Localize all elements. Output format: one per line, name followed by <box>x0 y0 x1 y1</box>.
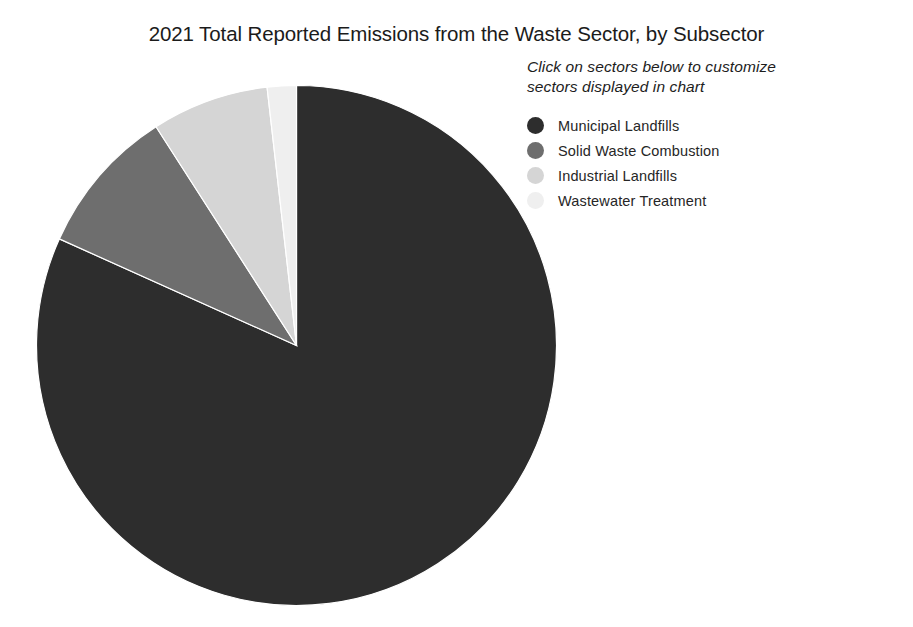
legend-swatch-icon <box>527 142 544 159</box>
legend-hint-text: Click on sectors below to customize sect… <box>527 57 827 97</box>
page-title: 2021 Total Reported Emissions from the W… <box>0 22 913 46</box>
legend-item-label: Wastewater Treatment <box>558 193 706 209</box>
legend-item-1[interactable]: Solid Waste Combustion <box>527 138 897 163</box>
legend-swatch-icon <box>527 167 544 184</box>
legend-hint-line-2: sectors displayed in chart <box>527 77 827 97</box>
pie-slice-group: Municipal Landfills: 81.7%Solid Waste Co… <box>37 86 557 606</box>
pie-chart-figure: 2021 Total Reported Emissions from the W… <box>0 0 913 627</box>
legend-item-label: Industrial Landfills <box>558 168 677 184</box>
legend-item-label: Solid Waste Combustion <box>558 143 720 159</box>
legend-item-2[interactable]: Industrial Landfills <box>527 163 897 188</box>
legend-swatch-icon <box>527 192 544 209</box>
legend-hint-line-1: Click on sectors below to customize <box>527 57 827 77</box>
legend-item-label: Municipal Landfills <box>558 118 679 134</box>
legend-swatch-icon <box>527 117 544 134</box>
legend-panel: Click on sectors below to customize sect… <box>527 57 897 213</box>
pie-chart-plot-area: Municipal Landfills: 81.7%Solid Waste Co… <box>36 85 557 606</box>
legend-list: Municipal LandfillsSolid Waste Combustio… <box>527 113 897 213</box>
legend-item-0[interactable]: Municipal Landfills <box>527 113 897 138</box>
pie-chart-svg: Municipal Landfills: 81.7%Solid Waste Co… <box>36 85 557 606</box>
legend-item-3[interactable]: Wastewater Treatment <box>527 188 897 213</box>
